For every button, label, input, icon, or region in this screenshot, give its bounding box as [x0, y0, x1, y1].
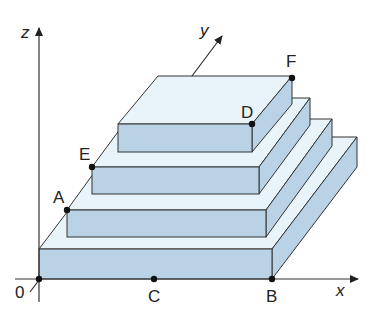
point-f	[289, 75, 295, 81]
point-f-label: F	[286, 53, 296, 70]
point-b	[269, 276, 275, 282]
y-axis-label: y	[200, 22, 209, 39]
point-e-label: E	[79, 146, 90, 163]
point-origin	[36, 276, 42, 282]
diagram-canvas	[0, 0, 379, 325]
x-axis-label: x	[336, 282, 345, 299]
point-a-label: A	[53, 189, 64, 206]
point-b-label: B	[266, 288, 277, 305]
point-c-label: C	[148, 288, 160, 305]
point-c	[151, 276, 157, 282]
z-axis-label: z	[21, 24, 30, 41]
point-d-label: D	[241, 104, 253, 121]
pyramid-diagram: z y x 0 C B A E D F	[0, 0, 379, 325]
origin-label: 0	[15, 284, 24, 301]
point-a	[64, 207, 70, 213]
point-e	[89, 164, 95, 170]
